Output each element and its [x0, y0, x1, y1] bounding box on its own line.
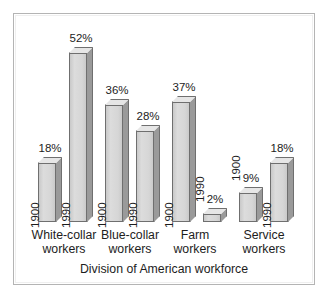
bar-front-face — [239, 193, 257, 222]
plot-area: 18%190052%199036%190028%199037%19002%199… — [0, 0, 331, 300]
bar-year-label: 1900 — [163, 202, 175, 228]
bar-value-label: 52% — [61, 32, 101, 44]
bar-1900-36 — [105, 99, 129, 222]
category-label-line2: workers — [209, 242, 319, 256]
bar-side-face — [288, 157, 294, 222]
bar-1900-18 — [38, 157, 62, 222]
bar-year-label: 1900 — [29, 202, 41, 228]
bar-1900-9 — [239, 187, 263, 222]
category-label-line1: Service — [243, 228, 284, 242]
bar-value-label: 36% — [97, 84, 137, 96]
bar-1990-18 — [270, 157, 294, 222]
bar-year-label: 1900 — [96, 202, 108, 228]
category-label-4: Serviceworkers — [209, 228, 319, 256]
bar-side-face — [87, 47, 93, 222]
bar-year-label: 1990 — [127, 202, 139, 228]
x-axis-title: Division of American workforce — [13, 262, 315, 276]
bar-value-label: 18% — [30, 142, 70, 154]
chart-figure: 18%190052%199036%190028%199037%19002%199… — [0, 0, 331, 300]
bar-year-label: 1900 — [230, 155, 242, 181]
bar-value-label: 37% — [164, 81, 204, 93]
bar-1990-28 — [136, 125, 160, 222]
bar-value-label: 18% — [262, 142, 302, 154]
bar-value-label: 28% — [128, 110, 168, 122]
bar-year-label: 1990 — [261, 202, 273, 228]
bar-front-face — [203, 214, 221, 222]
bar-front-face — [69, 53, 87, 222]
bar-1900-37 — [172, 96, 196, 222]
category-label-line1: Farm — [181, 228, 210, 242]
bar-year-label: 1990 — [194, 176, 206, 202]
bar-1990-2 — [203, 208, 227, 222]
bar-1990-52 — [69, 47, 93, 222]
bar-year-label: 1990 — [60, 202, 72, 228]
bar-side-face — [154, 125, 160, 222]
